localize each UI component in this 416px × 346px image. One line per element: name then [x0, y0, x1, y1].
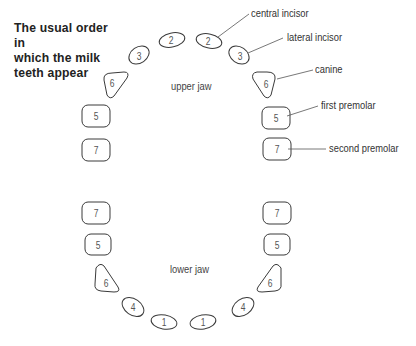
lower-right-lateral-incisor-order: 4 [235, 302, 252, 313]
upper-left-canine-order: 6 [104, 78, 121, 89]
upper-right-first-premolar-order: 5 [268, 113, 285, 124]
callout-lateral-incisor: lateral incisor [287, 31, 342, 43]
lower-right-canine-order: 6 [262, 278, 279, 289]
lower-left-central-incisor-order: 1 [156, 317, 173, 328]
leader-central-incisor [218, 14, 249, 37]
upper-left-second-premolar-order: 7 [88, 145, 105, 156]
callout-canine: canine [315, 63, 343, 75]
leader-canine [277, 70, 313, 79]
lower-right-second-premolar-order: 7 [269, 208, 286, 219]
lower-left-first-premolar-order: 5 [90, 240, 107, 251]
lower-left-lateral-incisor-order: 4 [125, 302, 142, 313]
dental-arch-diagram [0, 0, 416, 346]
callout-first-premolar: first premolar [321, 99, 376, 111]
upper-jaw-label: upper jaw [171, 80, 212, 92]
lower-left-canine-order: 6 [98, 278, 115, 289]
upper-right-canine-order: 6 [258, 79, 275, 90]
leader-lateral-incisor [248, 38, 283, 53]
upper-left-first-premolar-order: 5 [88, 111, 105, 122]
callout-central-incisor: central incisor [251, 7, 309, 19]
upper-left-lateral-incisor-order: 3 [131, 51, 148, 62]
lower-left-second-premolar-order: 7 [88, 208, 105, 219]
upper-right-central-incisor-order: 2 [200, 36, 217, 47]
upper-right-second-premolar-order: 7 [269, 144, 286, 155]
lower-jaw-label: lower jaw [170, 263, 209, 275]
upper-left-central-incisor-order: 2 [163, 35, 180, 46]
leader-first-premolar [287, 106, 318, 116]
lower-right-central-incisor-order: 1 [195, 317, 212, 328]
callout-second-premolar: second premolar [329, 142, 399, 154]
upper-right-lateral-incisor-order: 3 [232, 51, 249, 62]
lower-right-first-premolar-order: 5 [269, 240, 286, 251]
